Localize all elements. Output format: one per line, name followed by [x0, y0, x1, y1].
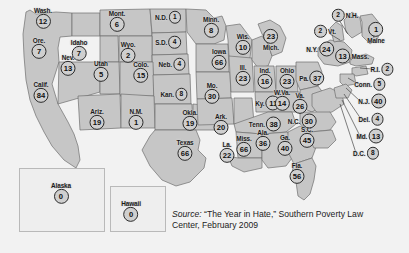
state-value-bubble: 2: [314, 25, 327, 38]
state-value-bubble: 13: [335, 49, 350, 64]
state-label-neb[interactable]: Neb.4: [158, 58, 185, 71]
state-label-n-y[interactable]: N.Y.24: [306, 42, 334, 57]
state-name: Pa.: [299, 75, 308, 82]
state-value-bubble: 0: [124, 207, 139, 222]
state-label-ark[interactable]: Ark.20: [214, 113, 229, 135]
state-label-mo[interactable]: Mo.30: [205, 82, 220, 104]
state-name: Ark.: [215, 113, 227, 120]
state-label-ohio[interactable]: Ohio23: [280, 67, 295, 89]
state-label-w-va[interactable]: W.Va.14: [274, 89, 290, 111]
state-name: Md.: [357, 133, 368, 140]
state-label-md[interactable]: Md.13: [357, 129, 384, 144]
state-value-bubble: 5: [94, 67, 109, 82]
state-name: Calif.: [33, 81, 48, 88]
state-label-wash[interactable]: Wash.12: [34, 7, 52, 29]
state-label-kan[interactable]: Kan.8: [160, 88, 187, 101]
state-name: Okla.: [182, 109, 197, 116]
state-label-s-d[interactable]: S.D.4: [155, 36, 181, 49]
state-label-n-m[interactable]: N.M.1: [129, 108, 144, 130]
state-label-colo[interactable]: Colo.15: [133, 61, 148, 83]
state-name: Del.: [358, 116, 369, 123]
state-value-bubble: 4: [371, 113, 384, 126]
state-label-wis[interactable]: Wis.10: [236, 33, 251, 55]
state-label-wyo[interactable]: Wyo.2: [121, 41, 136, 63]
state-name: N.M.: [129, 108, 142, 115]
state-label-ala[interactable]: Ala.36: [256, 129, 271, 151]
state-name: Ill.: [240, 64, 247, 71]
state-label-va[interactable]: Va.26: [293, 92, 308, 114]
state-label-pa[interactable]: Pa.37: [299, 71, 324, 86]
state-value-bubble: 56: [290, 169, 305, 184]
state-name: Ind.: [260, 67, 271, 74]
state-name: Ky.: [255, 100, 264, 107]
state-value-bubble: 5: [373, 78, 386, 91]
state-label-del[interactable]: Del.4: [358, 113, 383, 126]
state-name: Utah: [94, 60, 108, 67]
state-label-hawaii[interactable]: Hawaii 0: [121, 200, 141, 222]
state-label-ore[interactable]: Ore.7: [32, 37, 47, 59]
state-label-nev[interactable]: Nev.13: [61, 54, 76, 76]
state-value-bubble: 6: [109, 17, 124, 32]
state-label-mass[interactable]: 13Mass.: [335, 49, 369, 64]
state-value-bubble: 13: [368, 129, 383, 144]
state-label-alaska[interactable]: Alaska 0: [51, 182, 71, 204]
state-label-texas[interactable]: Texas66: [176, 139, 193, 161]
state-label-vt[interactable]: 2Vt.: [314, 25, 336, 38]
state-name: S.D.: [155, 39, 167, 46]
state-name: Nev.: [62, 54, 75, 61]
state-value-bubble: 7: [32, 44, 47, 59]
state-label-mont[interactable]: Mont.6: [109, 10, 126, 32]
state-name: Minn.: [203, 16, 219, 23]
state-label-fla[interactable]: Fla.56: [290, 162, 305, 184]
state-name: Conn.: [354, 81, 372, 88]
state-label-d-c[interactable]: D.C.8: [353, 147, 379, 160]
state-name: Idaho: [71, 39, 88, 46]
state-value-bubble: 10: [236, 40, 251, 55]
state-name: Vt.: [328, 28, 336, 35]
state-name: Neb.: [158, 61, 171, 68]
state-label-ind[interactable]: Ind.16: [258, 67, 273, 89]
state-label-minn[interactable]: Minn.8: [203, 16, 219, 38]
state-value-bubble: 13: [61, 61, 76, 76]
state-name: N.C.: [288, 118, 300, 125]
state-value-bubble: 4: [168, 36, 181, 49]
state-label-okla[interactable]: Okla.19: [182, 109, 197, 131]
state-label-la[interactable]: La.22: [220, 141, 235, 163]
state-value-bubble: 4: [173, 58, 186, 71]
state-label-calif[interactable]: Calif.84: [33, 81, 48, 103]
state-value-bubble: 24: [319, 42, 334, 57]
state-label-maine[interactable]: 1Maine: [367, 22, 385, 44]
state-name: Hawaii: [121, 200, 141, 207]
state-value-bubble: 1: [169, 11, 182, 24]
hate-groups-map-figure: Alaska 0 Hawaii 0 Wash.12Ore.7Idaho7Mont…: [0, 0, 409, 253]
state-label-ariz[interactable]: Ariz.19: [90, 108, 105, 130]
state-label-n-d[interactable]: N.D.1: [155, 11, 181, 24]
state-value-bubble: 36: [256, 136, 271, 151]
state-label-ga[interactable]: Ga.40: [278, 134, 293, 156]
state-label-s-c[interactable]: S.C.45: [300, 126, 315, 148]
state-name: Texas: [176, 139, 193, 146]
state-name: Va.: [296, 92, 305, 99]
state-name: Mont.: [109, 10, 126, 17]
state-name: Wyo.: [121, 41, 136, 48]
state-value-bubble: 22: [220, 148, 235, 163]
state-name: Mo.: [207, 82, 218, 89]
state-label-iowa[interactable]: Iowa66: [212, 48, 227, 70]
state-value-bubble: 1: [129, 115, 144, 130]
state-value-bubble: 1: [369, 22, 384, 37]
state-value-bubble: 15: [133, 68, 148, 83]
state-name: La.: [223, 141, 232, 148]
state-label-n-c[interactable]: N.C.30: [288, 114, 317, 129]
state-label-conn[interactable]: Conn.5: [354, 78, 385, 91]
state-value-bubble: 12: [36, 14, 51, 29]
source-note: Source: “The Year in Hate,” Southern Pov…: [172, 209, 387, 232]
state-label-ill[interactable]: Ill.23: [236, 64, 251, 86]
state-label-utah[interactable]: Utah5: [94, 60, 109, 82]
state-value-bubble: 14: [274, 96, 289, 111]
state-label-n-j[interactable]: N.J.40: [358, 94, 386, 109]
state-value-bubble: 30: [205, 89, 220, 104]
state-label-mich[interactable]: 23Mich.: [263, 29, 279, 51]
state-label-miss[interactable]: Miss.66: [236, 135, 251, 157]
state-label-n-h[interactable]: 2N.H.: [332, 9, 358, 22]
state-label-r-i[interactable]: R.I.2: [370, 63, 393, 76]
